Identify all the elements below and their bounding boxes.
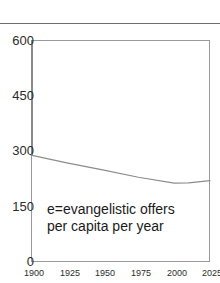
chart-annotation: e=evangelistic offers per capita per yea… xyxy=(47,201,175,235)
data-series-layer xyxy=(0,0,220,283)
annotation-line-1: e=evangelistic offers xyxy=(47,201,175,218)
data-series-line-e xyxy=(31,155,210,183)
annotation-line-2: per capita per year xyxy=(47,218,175,235)
chart-container: 600 450 300 150 0 1900 1925 1950 1975 20… xyxy=(0,0,220,283)
